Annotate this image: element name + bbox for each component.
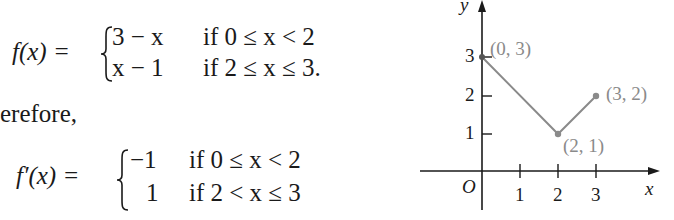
annotation-0-3: (0, 3) [490,38,531,60]
x-axis-label: x [645,178,653,200]
point-3-2 [593,93,599,99]
y-tick-1: 1 [465,122,475,144]
x-tick-2: 2 [553,184,563,206]
x-tick-1: 1 [515,184,525,206]
y-tick-3: 3 [465,45,475,67]
y-tick-2: 2 [465,84,475,106]
point-2-1 [555,131,561,137]
y-axis-label: y [460,0,468,16]
point-0-3 [479,54,485,60]
origin-label: O [462,176,476,198]
annotation-2-1: (2, 1) [563,135,604,157]
x-axis-arrow-icon [648,167,660,175]
annotation-3-2: (3, 2) [606,83,647,105]
x-tick-3: 3 [591,184,601,206]
f-graph-line [482,57,596,134]
y-axis-arrow-icon [478,0,486,12]
graph [0,0,674,220]
